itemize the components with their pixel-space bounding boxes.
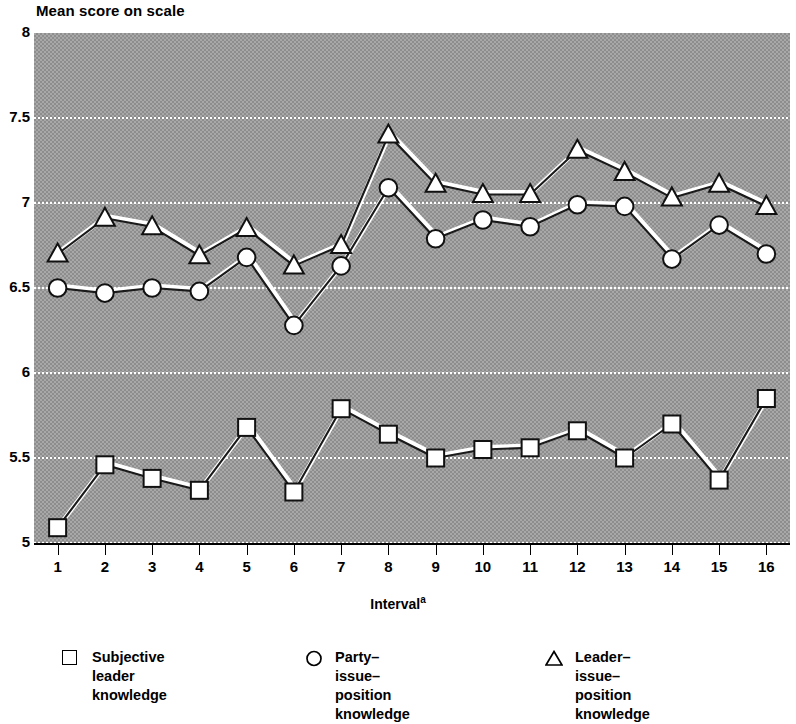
data-point-square — [522, 439, 539, 456]
x-axis-tick-label: 15 — [699, 558, 739, 575]
x-axis-tick — [105, 545, 106, 555]
legend: Subjective leader knowledgeParty–issue–p… — [0, 648, 796, 705]
triangle-marker-icon — [545, 650, 563, 668]
x-axis-line — [34, 543, 790, 545]
data-point-circle — [521, 218, 539, 236]
x-axis-tick-label: 14 — [652, 558, 692, 575]
data-point-circle — [332, 257, 350, 275]
data-point-circle — [616, 198, 634, 216]
data-point-square — [758, 390, 775, 407]
square-marker-icon — [62, 650, 80, 668]
x-axis-tick — [436, 545, 437, 555]
x-axis-tick — [672, 545, 673, 555]
x-axis-tick-label: 13 — [605, 558, 645, 575]
data-point-square — [96, 456, 113, 473]
data-point-circle — [191, 283, 209, 301]
x-axis-tick-label: 5 — [227, 558, 267, 575]
data-point-circle — [663, 250, 681, 268]
legend-item-label: Subjective leader knowledge — [92, 648, 167, 705]
plot-area — [34, 33, 790, 543]
x-axis-tick — [483, 545, 484, 555]
data-point-square — [569, 422, 586, 439]
y-axis-tick-label: 8 — [0, 23, 30, 40]
y-axis-tick-label: 7.5 — [0, 108, 30, 125]
legend-item-label: Party–issue–position knowledge — [335, 648, 410, 724]
x-axis-tick — [530, 545, 531, 555]
x-axis-tick-label: 12 — [557, 558, 597, 575]
data-point-circle — [427, 230, 445, 248]
x-axis-tick — [577, 545, 578, 555]
data-point-square — [285, 484, 302, 501]
data-point-triangle — [378, 125, 398, 143]
circle-marker-icon — [305, 650, 323, 668]
data-point-circle — [710, 216, 728, 234]
data-point-circle — [474, 211, 492, 229]
x-axis-tick — [625, 545, 626, 555]
x-axis-tick-label: 8 — [368, 558, 408, 575]
data-point-circle — [49, 279, 67, 297]
x-axis-title: Intervala — [0, 594, 796, 612]
y-axis-tick-label: 5 — [0, 533, 30, 550]
x-axis-tick-label: 6 — [274, 558, 314, 575]
x-axis-tick — [294, 545, 295, 555]
data-point-circle — [380, 179, 398, 197]
y-axis-tick-label: 7 — [0, 193, 30, 210]
y-axis-tick-label: 6.5 — [0, 278, 30, 295]
data-point-square — [474, 441, 491, 458]
data-point-square — [49, 519, 66, 536]
data-point-square — [663, 416, 680, 433]
x-axis-tick-label: 9 — [416, 558, 456, 575]
data-point-circle — [758, 245, 776, 263]
data-series-layer — [34, 33, 790, 543]
x-axis-title-text: Interval — [370, 596, 420, 612]
data-point-square — [191, 482, 208, 499]
x-axis-tick — [247, 545, 248, 555]
x-axis-tick-label: 3 — [132, 558, 172, 575]
x-axis-tick-label: 16 — [746, 558, 786, 575]
data-point-square — [238, 419, 255, 436]
series-square — [49, 390, 775, 536]
x-axis-tick-label: 2 — [85, 558, 125, 575]
data-point-circle — [569, 196, 587, 214]
y-axis-title: Mean score on scale — [36, 2, 185, 19]
data-point-square — [144, 470, 161, 487]
x-axis-tick-label: 10 — [463, 558, 503, 575]
x-axis-tick — [388, 545, 389, 555]
x-axis-tick — [152, 545, 153, 555]
x-axis-tick-label: 7 — [321, 558, 361, 575]
x-axis-tick-label: 4 — [179, 558, 219, 575]
x-axis-tick — [58, 545, 59, 555]
x-axis-tick-label: 11 — [510, 558, 550, 575]
data-point-square — [333, 400, 350, 417]
y-axis-tick-label: 5.5 — [0, 448, 30, 465]
data-point-square — [711, 472, 728, 489]
y-axis-tick-label: 6 — [0, 363, 30, 380]
data-point-square — [380, 426, 397, 443]
data-point-circle — [285, 317, 303, 335]
data-point-triangle — [331, 235, 351, 253]
x-axis-tick — [719, 545, 720, 555]
data-point-circle — [238, 249, 256, 267]
data-point-square — [616, 450, 633, 467]
data-point-circle — [143, 279, 161, 297]
data-point-square — [427, 450, 444, 467]
data-point-circle — [96, 284, 114, 302]
x-axis-tick — [766, 545, 767, 555]
x-axis-tick — [199, 545, 200, 555]
x-axis-title-footnote: a — [420, 594, 426, 605]
data-point-triangle — [237, 218, 257, 236]
x-axis-tick — [341, 545, 342, 555]
x-axis-tick-label: 1 — [38, 558, 78, 575]
legend-item-label: Leader–issue–position knowledge — [575, 648, 650, 724]
